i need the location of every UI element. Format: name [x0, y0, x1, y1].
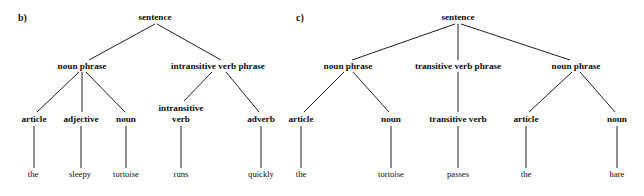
node-word-sleepy: sleepy — [69, 169, 92, 179]
edge-sentence-noun-phrase-object — [461, 24, 570, 60]
node-word-hare: hare — [610, 169, 625, 179]
node-noun-phrase-subject: noun phrase — [324, 61, 373, 71]
node-noun-phrase: noun phrase — [58, 61, 107, 71]
node-line: adjective — [63, 114, 98, 124]
node-line: intransitive verb phrase — [171, 61, 265, 71]
node-intransitive-verb-phrase: intransitive verb phrase — [171, 61, 265, 71]
node-line: sleepy — [69, 169, 92, 179]
node-line: article — [514, 114, 539, 124]
node-line: intransitive — [159, 103, 204, 113]
panel-label: b) — [18, 12, 27, 24]
edge-noun-phrase-article — [37, 72, 79, 112]
node-word-tortoise: tortoise — [113, 169, 139, 179]
node-line: hare — [610, 169, 625, 179]
node-word-the-subject: the — [296, 169, 307, 179]
edge-np-subject-noun — [353, 72, 389, 112]
edge-sentence-noun-phrase — [89, 24, 155, 60]
node-word-the-object: the — [521, 169, 532, 179]
node-noun-phrase-object: noun phrase — [552, 61, 601, 71]
node-line: noun — [116, 114, 136, 124]
node-line: adverb — [247, 114, 275, 124]
node-line: verb — [172, 114, 190, 124]
node-article-object: article — [514, 114, 539, 124]
node-adverb: adverb — [247, 114, 275, 124]
parse-tree-figure: b)sentencenoun phraseintransitive verb p… — [0, 0, 644, 196]
panel-label: c) — [296, 12, 304, 24]
panel-c: c)sentencenoun phrasetransitive verb phr… — [289, 12, 627, 179]
node-line: transitive verb phrase — [415, 61, 501, 71]
node-word-runs: runs — [174, 169, 189, 179]
node-root-sentence: sentence — [441, 12, 474, 22]
node-article-subject: article — [289, 114, 314, 124]
node-line: article — [22, 114, 47, 124]
node-line: the — [28, 169, 39, 179]
tree-canvas: b)sentencenoun phraseintransitive verb p… — [0, 0, 644, 196]
node-line: tortoise — [113, 169, 139, 179]
node-intransitive-verb: intransitiveverb — [159, 103, 204, 124]
node-noun: noun — [116, 114, 136, 124]
node-line: the — [296, 169, 307, 179]
node-line: passes — [447, 169, 470, 179]
edge-sentence-intransitive-verb-phrase — [157, 24, 221, 60]
node-word-tortoise: tortoise — [378, 169, 404, 179]
node-line: sentence — [138, 12, 171, 22]
node-line: noun — [607, 114, 627, 124]
node-line: runs — [174, 169, 189, 179]
node-line: noun phrase — [324, 61, 373, 71]
node-line: noun phrase — [58, 61, 107, 71]
edge-np-subject-article — [304, 72, 344, 112]
edge-np-object-article — [529, 72, 572, 112]
node-transitive-verb-phrase: transitive verb phrase — [415, 61, 501, 71]
node-article: article — [22, 114, 47, 124]
edge-np-object-noun — [580, 72, 615, 112]
node-line: noun — [381, 114, 401, 124]
node-adjective: adjective — [63, 114, 98, 124]
node-noun-object: noun — [607, 114, 627, 124]
panel-b: b)sentencenoun phraseintransitive verb p… — [18, 12, 275, 179]
node-line: noun phrase — [552, 61, 601, 71]
node-line: transitive verb — [429, 114, 486, 124]
node-line: article — [289, 114, 314, 124]
node-line: tortoise — [378, 169, 404, 179]
edge-ivp-adverb — [226, 72, 259, 112]
node-word-the: the — [28, 169, 39, 179]
edge-ivp-intransitive-verb — [184, 72, 212, 101]
node-line: the — [521, 169, 532, 179]
node-word-quickly: quickly — [248, 169, 274, 179]
node-transitive-verb: transitive verb — [429, 114, 486, 124]
node-noun-subject: noun — [381, 114, 401, 124]
edge-sentence-noun-phrase-subject — [352, 24, 455, 60]
node-line: sentence — [441, 12, 474, 22]
node-root-sentence: sentence — [138, 12, 171, 22]
node-line: quickly — [248, 169, 274, 179]
node-word-passes: passes — [447, 169, 470, 179]
edge-noun-phrase-noun — [86, 72, 125, 112]
